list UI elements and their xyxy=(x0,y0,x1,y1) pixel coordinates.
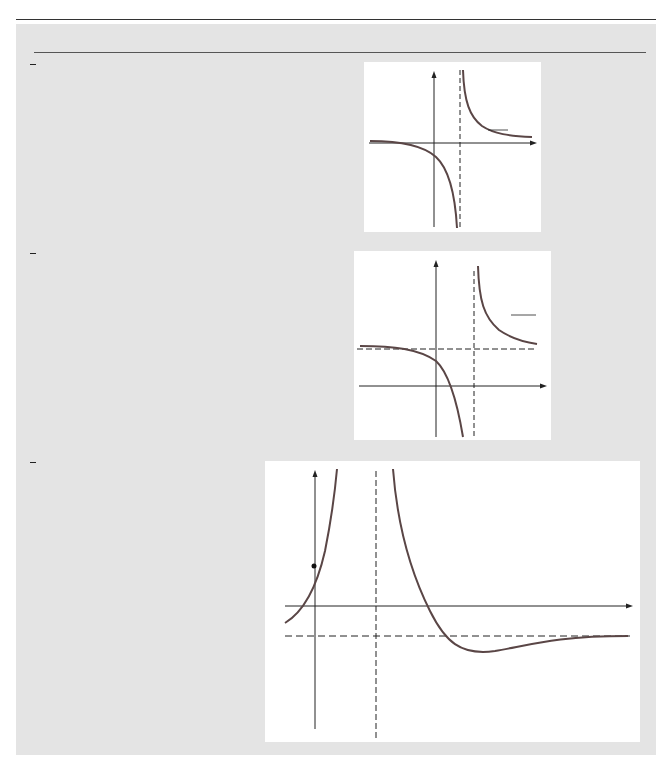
graph-1 xyxy=(364,62,541,232)
function-1 xyxy=(26,64,36,65)
graph-2 xyxy=(354,251,551,440)
header-rule xyxy=(34,52,646,53)
top-rule xyxy=(16,19,656,20)
graph-3 xyxy=(265,461,640,742)
function-3 xyxy=(26,462,36,463)
function-2 xyxy=(26,253,36,254)
